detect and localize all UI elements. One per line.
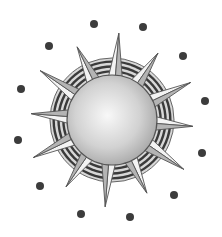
dot <box>77 210 85 218</box>
dot <box>36 182 44 190</box>
dot <box>90 20 98 28</box>
dot <box>201 97 209 105</box>
dot <box>198 149 206 157</box>
sun-ray <box>108 33 122 78</box>
sun-illustration <box>0 0 222 237</box>
dot <box>179 52 187 60</box>
dot <box>170 191 178 199</box>
dot <box>45 42 53 50</box>
sun-ray <box>102 162 116 207</box>
dot <box>17 85 25 93</box>
sun-core <box>67 75 157 165</box>
dot <box>139 23 147 31</box>
dot <box>126 213 134 221</box>
dot <box>14 136 22 144</box>
